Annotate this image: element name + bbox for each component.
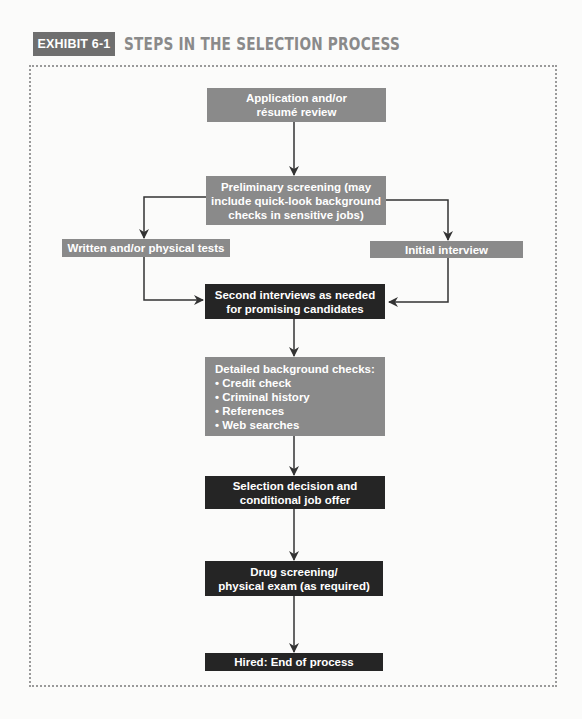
step-drug-screening: Drug screening/ physical exam (as requir… — [205, 561, 383, 596]
step-background-checks: Detailed background checks: • Credit che… — [205, 357, 385, 436]
step-text: Drug screening/ — [250, 565, 338, 579]
step-hired: Hired: End of process — [205, 653, 383, 671]
step-written-tests: Written and/or physical tests — [62, 239, 230, 257]
step-text: résumé review — [257, 105, 337, 119]
step-heading: Detailed background checks: — [215, 362, 375, 376]
step-initial-interview: Initial interview — [370, 241, 523, 258]
arrow-preliminary-to-initial — [386, 200, 448, 240]
step-text: Second interviews as needed — [215, 288, 375, 302]
check-item: • Criminal history — [215, 390, 310, 404]
step-text: Selection decision and — [233, 479, 358, 493]
step-second-interviews: Second interviews as needed for promisin… — [205, 284, 385, 319]
step-application-review: Application and/or résumé review — [207, 88, 386, 122]
step-text: conditional job offer — [240, 493, 351, 507]
step-preliminary-screening: Preliminary screening (may include quick… — [206, 176, 386, 225]
check-item: • Credit check — [215, 376, 291, 390]
step-text: include quick-look background — [211, 194, 381, 208]
step-text: Hired: End of process — [234, 655, 354, 669]
step-text: physical exam (as required) — [218, 579, 369, 593]
step-text: checks in sensitive jobs) — [228, 208, 364, 222]
arrow-initial-to-second — [389, 257, 448, 302]
step-text: for promising candidates — [226, 302, 363, 316]
step-text: Preliminary screening (may — [221, 180, 371, 194]
arrow-written-to-second — [144, 257, 203, 300]
step-text: Initial interview — [405, 243, 488, 257]
step-text: Written and/or physical tests — [68, 241, 225, 255]
check-item: • References — [215, 404, 284, 418]
arrow-preliminary-to-written — [144, 197, 206, 238]
step-text: Application and/or — [246, 91, 347, 105]
check-item: • Web searches — [215, 418, 299, 432]
step-selection-decision: Selection decision and conditional job o… — [205, 476, 385, 509]
